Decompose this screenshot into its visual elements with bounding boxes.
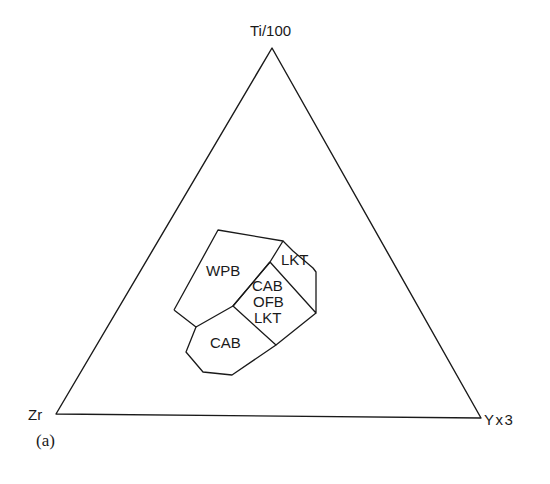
- ternary-triangle-outline: [56, 48, 481, 418]
- field-label-cab-ofb-lkt-line1: CAB: [252, 277, 283, 294]
- ternary-diagram: Ti/100 Zr Yx3 (a) WPB LKT CAB OFB LKT CA…: [0, 0, 550, 484]
- vertex-label-top: Ti/100: [250, 22, 291, 39]
- field-label-wpb: WPB: [206, 262, 240, 279]
- field-label-cab-ofb-lkt-line3: LKT: [254, 309, 282, 326]
- field-label-lkt: LKT: [281, 251, 309, 268]
- vertex-label-right: Yx3: [484, 411, 514, 428]
- vertex-label-left: Zr: [28, 406, 42, 423]
- figure-caption: (a): [36, 431, 55, 450]
- field-label-cab-ofb-lkt-line2: OFB: [253, 293, 284, 310]
- field-label-cab: CAB: [210, 334, 241, 351]
